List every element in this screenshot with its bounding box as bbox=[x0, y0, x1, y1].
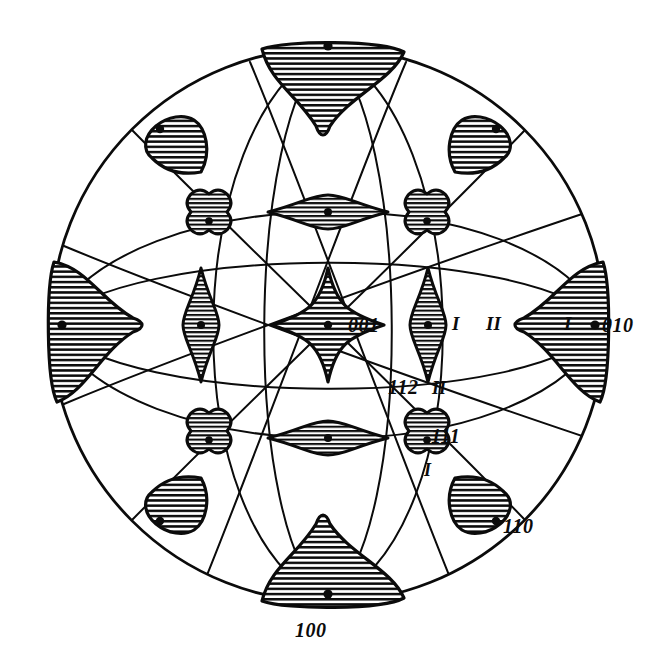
label-110: 110 bbox=[503, 515, 533, 537]
label-roman-one-right: I bbox=[563, 313, 572, 334]
label-roman-two-middle: II bbox=[431, 378, 447, 398]
pole-blob-111-d bbox=[187, 190, 231, 234]
label-001: 001 bbox=[348, 314, 380, 336]
label-010: 010 bbox=[602, 314, 634, 336]
pole-blob-111-b bbox=[187, 409, 231, 453]
pole-figure-container: 001 010 100 110 111 112 I II I II I bbox=[0, 0, 658, 663]
pole-blob-010-negative bbox=[48, 262, 142, 402]
label-112: 112 bbox=[388, 376, 418, 398]
pole-blob-100 bbox=[262, 515, 404, 607]
pole-blob-111-c bbox=[405, 190, 449, 234]
label-roman-two-center: II bbox=[485, 313, 501, 334]
pole-blob-110 bbox=[449, 477, 510, 534]
label-roman-one-bottom: I bbox=[423, 460, 432, 480]
pole-blob-010 bbox=[515, 262, 609, 402]
label-100: 100 bbox=[295, 619, 327, 641]
pole-blob-110-tl bbox=[146, 117, 207, 174]
pole-blob-110-tr bbox=[449, 117, 510, 174]
pole-blob-110-bl bbox=[146, 477, 207, 534]
stereographic-pole-figure: 001 010 100 110 111 112 I II I II I bbox=[0, 0, 658, 663]
label-roman-one-center: I bbox=[451, 313, 460, 334]
pole-blob-101 bbox=[268, 421, 388, 455]
pole-blob-101-negative bbox=[268, 195, 388, 229]
label-111: 111 bbox=[431, 425, 460, 447]
